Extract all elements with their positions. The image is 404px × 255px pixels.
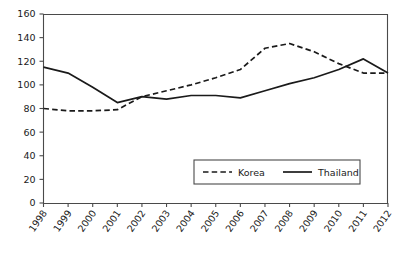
y-tick-label: 160	[17, 8, 35, 19]
x-tick-label: 2000	[75, 208, 98, 234]
y-tick-label: 80	[23, 103, 35, 114]
y-tick-label: 140	[17, 32, 35, 43]
y-tick-label: 120	[17, 56, 35, 67]
series-line-korea	[44, 44, 389, 111]
x-tick-group: 1998199920002001200220032004200520062007…	[26, 203, 393, 234]
x-tick-label: 2005	[199, 208, 222, 234]
y-tick-label: 20	[23, 174, 35, 185]
x-tick-label: 2006	[223, 208, 246, 234]
x-tick-label: 2002	[125, 208, 148, 234]
x-tick-label: 2011	[346, 208, 369, 234]
x-tick-label: 1998	[26, 208, 49, 234]
x-tick-label: 2010	[322, 208, 345, 234]
y-axis: 020406080100120140160	[17, 8, 43, 208]
y-tick-label: 40	[23, 150, 35, 161]
x-tick-label: 2007	[248, 208, 271, 234]
legend-label-thailand: Thailand	[317, 167, 359, 178]
y-tick-label: 100	[17, 79, 35, 90]
y-tick-label: 0	[29, 197, 35, 208]
x-tick-label: 2001	[100, 208, 123, 234]
legend-label-korea: Korea	[238, 167, 265, 178]
x-tick-label: 2008	[272, 208, 295, 234]
chart-svg: 020406080100120140160 199819992000200120…	[0, 0, 404, 255]
x-tick-label: 2003	[149, 208, 172, 234]
series-group	[44, 44, 389, 111]
y-tick-label: 60	[23, 127, 35, 138]
x-tick-label: 2004	[174, 208, 197, 234]
series-line-thailand	[44, 59, 389, 103]
x-tick-label: 1999	[51, 208, 74, 234]
y-tick-group: 020406080100120140160	[17, 8, 43, 208]
x-axis: 1998199920002001200220032004200520062007…	[26, 203, 393, 234]
chart-legend: Korea Thailand	[194, 160, 360, 184]
line-chart: 020406080100120140160 199819992000200120…	[0, 0, 404, 255]
x-tick-label: 2009	[297, 208, 320, 234]
x-tick-label: 2012	[371, 208, 394, 234]
